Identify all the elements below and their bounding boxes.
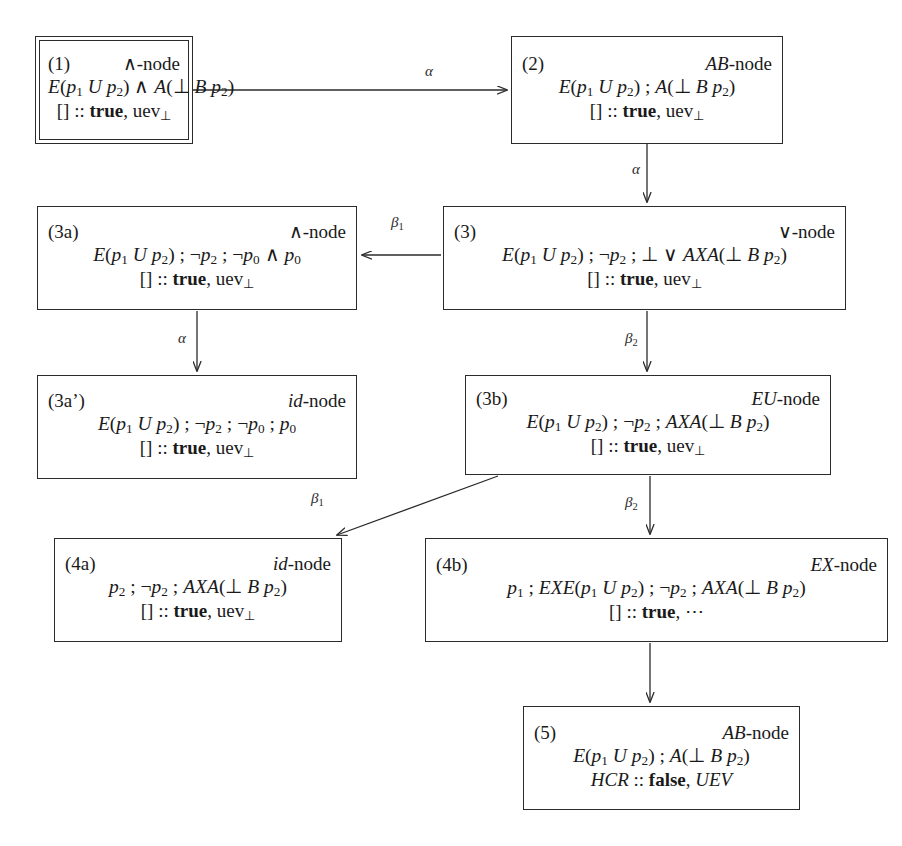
node-status: [] :: true, uev⊥ — [48, 268, 346, 292]
node-body: (5)AB-nodeE(p1 U p2) ; A(⊥ B p2)HCR :: f… — [534, 711, 789, 803]
tableau-node-n4b: (4b)EX-nodep1 ; EXE(p1 U p2) ; ¬p2 ; AXA… — [425, 538, 888, 642]
node-body: (4a)id-nodep2 ; ¬p2 ; AXA(⊥ B p2)[] :: t… — [65, 543, 331, 635]
node-status: [] :: true, uev⊥ — [65, 600, 331, 624]
edge-label-e2: α — [632, 161, 640, 178]
tableau-node-n3a: (3a)∧-nodeE(p1 U p2) ; ¬p2 ; ¬p0 ∧ p0[] … — [37, 206, 357, 310]
edge-label-e7: β2 — [625, 494, 638, 512]
tableau-node-n4a: (4a)id-nodep2 ; ¬p2 ; AXA(⊥ B p2)[] :: t… — [54, 538, 342, 642]
node-status: [] :: true, uev⊥ — [48, 437, 346, 461]
edge-label-e5: β2 — [625, 330, 638, 348]
node-formula: E(p1 U p2) ; ¬p2 ; ⊥ ∨ AXA(⊥ B p2) — [454, 244, 835, 267]
node-body: (3)∨-nodeE(p1 U p2) ; ¬p2 ; ⊥ ∨ AXA(⊥ B … — [454, 211, 835, 303]
node-type: id-node — [288, 391, 346, 412]
edge-label-e3: β1 — [391, 214, 404, 232]
node-type: id-node — [273, 554, 331, 575]
node-type: ∧-node — [289, 222, 346, 243]
node-status: [] :: true, uev⊥ — [476, 435, 820, 459]
node-body: (3a)∧-nodeE(p1 U p2) ; ¬p2 ; ¬p0 ∧ p0[] … — [48, 211, 346, 303]
node-status: [] :: true, uev⊥ — [454, 268, 835, 292]
node-formula: E(p1 U p2) ; ¬p2 ; ¬p0 ; p0 — [48, 413, 346, 436]
node-id: (4a) — [65, 554, 96, 575]
node-header: (3)∨-node — [454, 222, 835, 243]
node-id: (3) — [454, 222, 476, 243]
node-status: HCR :: false, UEV — [534, 769, 789, 791]
node-header: (4a)id-node — [65, 554, 331, 575]
node-formula: E(p1 U p2) ; ¬p2 ; AXA(⊥ B p2) — [476, 411, 820, 434]
node-type: AB-node — [723, 723, 789, 744]
node-id: (5) — [534, 723, 556, 744]
node-formula: E(p1 U p2) ∧ A(⊥ B p2) — [48, 76, 180, 99]
node-id: (3b) — [476, 389, 508, 410]
node-id: (4b) — [436, 555, 468, 576]
node-type: ∨-node — [778, 222, 835, 243]
node-id: (3a) — [48, 222, 79, 243]
node-body: (4b)EX-nodep1 ; EXE(p1 U p2) ; ¬p2 ; AXA… — [436, 543, 877, 635]
node-header: (1)∧-node — [48, 54, 180, 75]
node-type: AB-node — [706, 54, 772, 75]
node-header: (3a’)id-node — [48, 391, 346, 412]
node-id: (3a’) — [48, 391, 85, 412]
node-id: (1) — [48, 54, 70, 75]
node-header: (3b)EU-node — [476, 389, 820, 410]
node-status: [] :: true, uev⊥ — [522, 100, 772, 124]
node-status: [] :: true, ⋯ — [436, 601, 877, 623]
edge-label-e6: β1 — [311, 490, 324, 508]
node-inner-border: (1)∧-nodeE(p1 U p2) ∧ A(⊥ B p2)[] :: tru… — [39, 40, 189, 140]
node-id: (2) — [522, 54, 544, 75]
edge-e6 — [337, 476, 498, 535]
tableau-node-n3: (3)∨-nodeE(p1 U p2) ; ¬p2 ; ⊥ ∨ AXA(⊥ B … — [443, 206, 846, 310]
tableau-node-n3b: (3b)EU-nodeE(p1 U p2) ; ¬p2 ; AXA(⊥ B p2… — [465, 375, 831, 475]
node-type: EX-node — [811, 555, 877, 576]
node-body: (3a’)id-nodeE(p1 U p2) ; ¬p2 ; ¬p0 ; p0[… — [48, 380, 346, 472]
node-status: [] :: true, uev⊥ — [48, 100, 180, 124]
node-formula: E(p1 U p2) ; A(⊥ B p2) — [534, 745, 789, 768]
node-body: (3b)EU-nodeE(p1 U p2) ; ¬p2 ; AXA(⊥ B p2… — [476, 380, 820, 468]
tableau-node-n2: (2)AB-nodeE(p1 U p2) ; A(⊥ B p2)[] :: tr… — [511, 36, 783, 144]
node-type: ∧-node — [123, 54, 180, 75]
tableau-node-n3ap: (3a’)id-nodeE(p1 U p2) ; ¬p2 ; ¬p0 ; p0[… — [37, 375, 357, 479]
node-formula: E(p1 U p2) ; ¬p2 ; ¬p0 ∧ p0 — [48, 244, 346, 267]
edge-label-e1: α — [425, 63, 433, 80]
node-header: (2)AB-node — [522, 54, 772, 75]
node-formula: p2 ; ¬p2 ; AXA(⊥ B p2) — [65, 576, 331, 599]
tableau-node-n5: (5)AB-nodeE(p1 U p2) ; A(⊥ B p2)HCR :: f… — [523, 706, 800, 810]
node-header: (5)AB-node — [534, 723, 789, 744]
node-header: (4b)EX-node — [436, 555, 877, 576]
tableau-node-n1: (1)∧-nodeE(p1 U p2) ∧ A(⊥ B p2)[] :: tru… — [35, 36, 193, 144]
edge-label-e4: α — [178, 330, 186, 347]
node-header: (3a)∧-node — [48, 222, 346, 243]
node-formula: p1 ; EXE(p1 U p2) ; ¬p2 ; AXA(⊥ B p2) — [436, 577, 877, 600]
node-body: (2)AB-nodeE(p1 U p2) ; A(⊥ B p2)[] :: tr… — [522, 41, 772, 137]
diagram-canvas: (1)∧-nodeE(p1 U p2) ∧ A(⊥ B p2)[] :: tru… — [0, 0, 902, 846]
node-type: EU-node — [751, 389, 820, 410]
node-formula: E(p1 U p2) ; A(⊥ B p2) — [522, 76, 772, 99]
